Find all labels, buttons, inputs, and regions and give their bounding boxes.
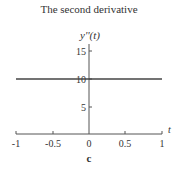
- chart-title: The second derivative: [40, 3, 137, 15]
- svg-text:15: 15: [76, 46, 86, 57]
- chart: The second derivative y''(t) t 5 10 15 -…: [0, 0, 183, 171]
- panel-caption: c: [87, 152, 92, 164]
- svg-text:0.5: 0.5: [119, 138, 132, 149]
- svg-text:-1: -1: [12, 138, 20, 149]
- svg-text:5: 5: [81, 102, 86, 113]
- svg-text:-0.5: -0.5: [45, 138, 61, 149]
- x-axis-label: t: [168, 124, 171, 135]
- svg-text:0: 0: [87, 138, 92, 149]
- y-axis-label: y''(t): [79, 29, 100, 42]
- svg-text:1: 1: [160, 138, 165, 149]
